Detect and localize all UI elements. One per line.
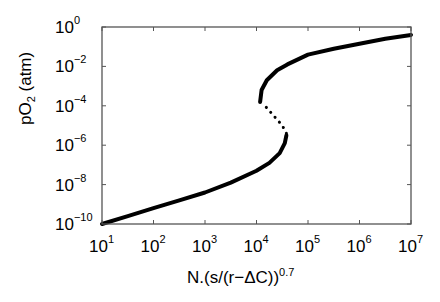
x-tick-label: 102 xyxy=(141,236,166,255)
x-tick-label: 101 xyxy=(89,236,114,255)
y-tick-label: 10−4 xyxy=(55,96,86,115)
x-axis-label-base: N.(s/(r−ΔC)) xyxy=(187,268,279,287)
x-tick-label: 107 xyxy=(398,236,423,255)
upper-stable-branch-line xyxy=(260,35,411,102)
y-axis-label-base: pO xyxy=(16,102,35,125)
y-axis-label-unit: (atm) xyxy=(16,52,35,96)
y-tick-label: 10−8 xyxy=(55,175,86,194)
y-axis-label-subscript: 2 xyxy=(25,96,37,102)
lower-stable-branch-line xyxy=(102,135,286,224)
axis-ticks xyxy=(102,27,411,224)
x-tick-label: 105 xyxy=(295,236,320,255)
y-tick-label: 100 xyxy=(55,17,80,36)
x-axis-label: N.(s/(r−ΔC))0.7 xyxy=(187,266,294,288)
data-series xyxy=(102,35,411,224)
unstable-branch-line xyxy=(263,104,287,134)
y-tick-label: 10−6 xyxy=(55,135,86,154)
y-tick-label: 10−2 xyxy=(55,56,86,75)
x-tick-label: 106 xyxy=(347,236,372,255)
x-tick-label: 103 xyxy=(192,236,217,255)
y-tick-label: 10−10 xyxy=(55,214,93,233)
y-axis-label: pO2 (atm) xyxy=(16,52,37,125)
plot-area-frame xyxy=(102,27,411,224)
x-axis-label-exponent: 0.7 xyxy=(279,266,294,278)
x-tick-label: 104 xyxy=(244,236,269,255)
